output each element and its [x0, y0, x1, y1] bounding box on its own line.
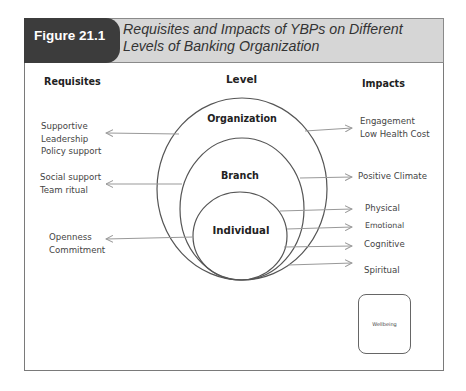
requisite-arrow-organization [106, 133, 179, 134]
impact-arrow-physical [280, 209, 352, 211]
level-header: Level [226, 73, 257, 85]
impact-arrow-branch [300, 177, 352, 178]
impact-spiritual: Spiritual [364, 264, 400, 277]
impact-arrow-spiritual [288, 263, 352, 265]
level-organization: Organization [207, 113, 277, 124]
level-branch: Branch [221, 170, 259, 181]
individual-ellipse [193, 192, 287, 280]
branch-ellipse [180, 138, 304, 280]
impact-arrow-cognitive [284, 246, 352, 247]
requisites-organization: Supportive Leadership Policy support [41, 120, 101, 158]
impacts-organization: Engagement Low Health Cost [360, 115, 430, 140]
requisite-arrow-individual [106, 237, 194, 239]
impact-physical: Physical [365, 202, 400, 215]
impact-cognitive: Cognitive [364, 238, 405, 251]
impact-positive-climate: Positive Climate [358, 170, 427, 183]
requisites-branch: Social support Team ritual [40, 171, 101, 196]
impacts-header: Impacts [362, 78, 405, 89]
impact-emotional: Emotional [365, 220, 404, 233]
level-individual: Individual [213, 225, 270, 236]
impact-arrow-organization [305, 128, 352, 131]
wellbeing-box: Wellbeing [358, 294, 411, 354]
requisites-individual: Openness Commitment [49, 231, 105, 256]
wellbeing-label: Wellbeing [372, 321, 397, 327]
requisites-header: Requisites [44, 76, 101, 87]
